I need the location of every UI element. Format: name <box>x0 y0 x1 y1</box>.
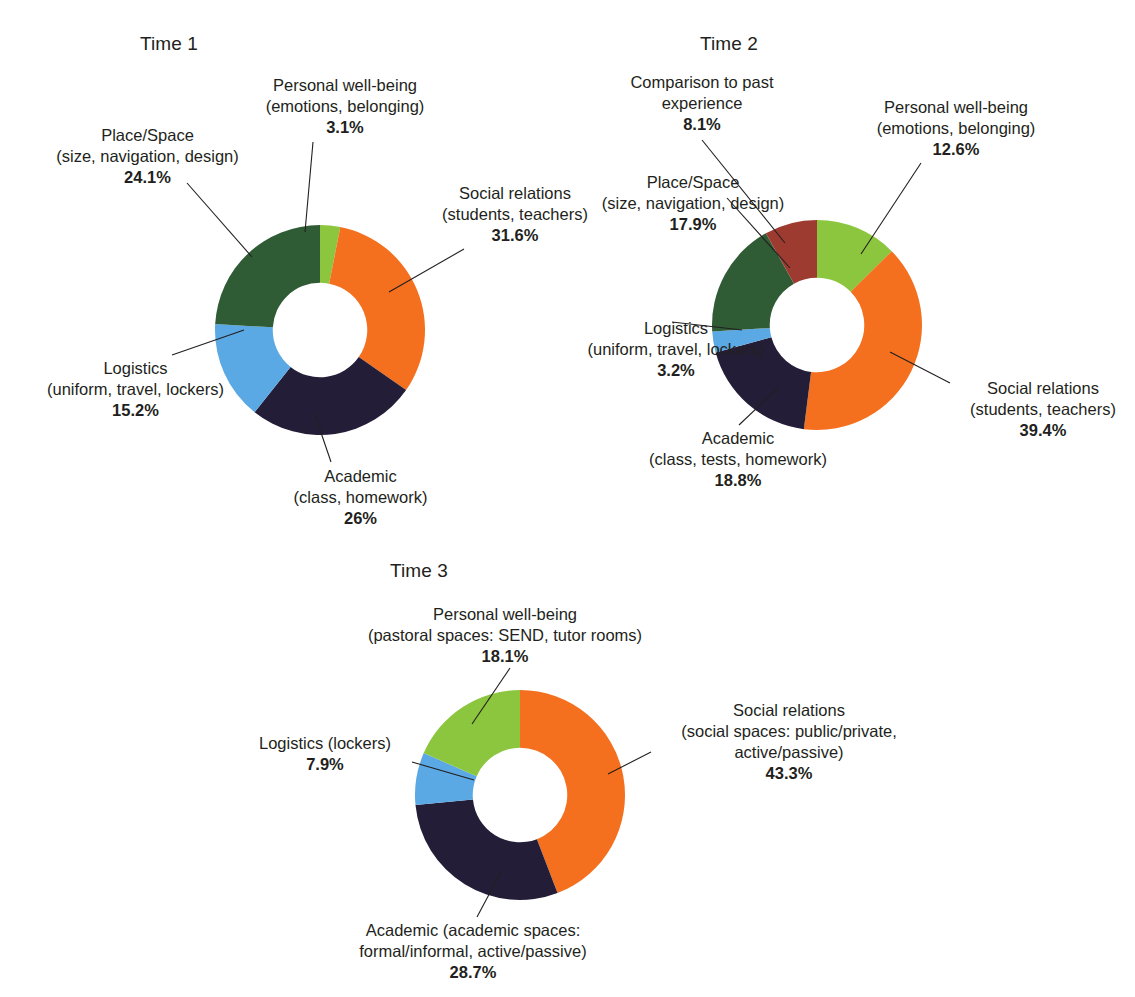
label-percent: 3.2% <box>560 360 792 381</box>
label-line: Logistics <box>18 358 253 379</box>
label-time-2-academic: Academic (class, tests, homework) 18.8% <box>610 428 866 491</box>
label-line: (class, homework) <box>258 487 463 508</box>
label-line: (students, teachers) <box>950 399 1135 420</box>
label-line: Social relations <box>950 378 1135 399</box>
label-percent: 26% <box>258 508 463 529</box>
label-time-1-logistics: Logistics (uniform, travel, lockers) 15.… <box>18 358 253 421</box>
figure-canvas: Time 1 Personal well-being (emotions, be… <box>0 0 1135 997</box>
label-time-3-personal-wellbeing: Personal well-being (pastoral spaces: SE… <box>320 604 690 667</box>
label-time-3-social-relations: Social relations (social spaces: public/… <box>650 700 928 784</box>
donut-slice <box>215 225 320 327</box>
label-percent: 7.9% <box>232 754 418 775</box>
donut-chart-time-3 <box>415 690 625 900</box>
chart-title-time-2: Time 2 <box>700 33 758 55</box>
label-line: (emotions, belonging) <box>240 96 450 117</box>
label-percent: 18.8% <box>610 470 866 491</box>
label-percent: 24.1% <box>30 167 265 188</box>
leader-line <box>305 142 313 232</box>
label-percent: 28.7% <box>318 962 628 983</box>
label-percent: 18.1% <box>320 646 690 667</box>
label-line: Place/Space <box>578 172 808 193</box>
label-time-2-social-relations: Social relations (students, teachers) 39… <box>950 378 1135 441</box>
label-line: active/passive) <box>650 742 928 763</box>
label-line: Academic (academic spaces: <box>318 920 628 941</box>
label-line: Personal well-being <box>848 97 1064 118</box>
label-line: Social relations <box>650 700 928 721</box>
label-percent: 17.9% <box>578 214 808 235</box>
label-percent: 12.6% <box>848 139 1064 160</box>
chart-title-time-1: Time 1 <box>140 33 198 55</box>
label-time-2-logistics: Logistics (uniform, travel, lockers) 3.2… <box>560 318 792 381</box>
label-line: (class, tests, homework) <box>610 449 866 470</box>
label-line: Logistics <box>560 318 792 339</box>
label-time-1-personal-wellbeing: Personal well-being (emotions, belonging… <box>240 75 450 138</box>
label-line: (pastoral spaces: SEND, tutor rooms) <box>320 625 690 646</box>
label-percent: 15.2% <box>18 400 253 421</box>
label-line: (uniform, travel, lockers) <box>560 339 792 360</box>
label-time-2-personal-wellbeing: Personal well-being (emotions, belonging… <box>848 97 1064 160</box>
label-line: Academic <box>610 428 866 449</box>
label-time-3-logistics: Logistics (lockers) 7.9% <box>232 733 418 775</box>
label-line: (uniform, travel, lockers) <box>18 379 253 400</box>
label-percent: 8.1% <box>607 114 797 135</box>
label-line: Personal well-being <box>320 604 690 625</box>
label-time-3-academic: Academic (academic spaces: formal/inform… <box>318 920 628 983</box>
donut-svg-time-3 <box>415 690 625 900</box>
label-line: (size, navigation, design) <box>30 146 265 167</box>
label-line: (size, navigation, design) <box>578 193 808 214</box>
label-time-1-academic: Academic (class, homework) 26% <box>258 466 463 529</box>
label-percent: 43.3% <box>650 763 928 784</box>
label-line: Personal well-being <box>240 75 450 96</box>
chart-title-time-3: Time 3 <box>390 560 448 582</box>
label-percent: 39.4% <box>950 420 1135 441</box>
label-time-1-place-space: Place/Space (size, navigation, design) 2… <box>30 125 265 188</box>
label-time-2-place-space: Place/Space (size, navigation, design) 1… <box>578 172 808 235</box>
donut-slice <box>415 800 557 900</box>
label-time-2-comparison-past: Comparison to past experience 8.1% <box>607 72 797 135</box>
donut-slice <box>329 227 425 390</box>
label-line: formal/informal, active/passive) <box>318 941 628 962</box>
label-line: Place/Space <box>30 125 265 146</box>
label-line: Comparison to past <box>607 72 797 93</box>
label-line: Logistics (lockers) <box>232 733 418 754</box>
label-line: experience <box>607 93 797 114</box>
label-line: Academic <box>258 466 463 487</box>
label-line: (emotions, belonging) <box>848 118 1064 139</box>
label-percent: 3.1% <box>240 117 450 138</box>
label-line: (social spaces: public/private, <box>650 721 928 742</box>
